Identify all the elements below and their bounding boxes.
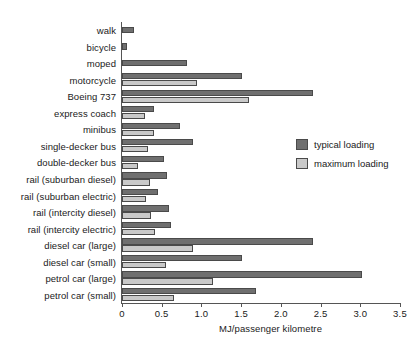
legend-item-typical-loading: typical loading (296, 137, 388, 152)
legend-swatch-maximum-icon (296, 158, 308, 169)
chart-row: diesel car (small) (0, 253, 419, 270)
bar-typical-loading (122, 288, 256, 294)
category-label: rail (suburban diesel) (26, 174, 116, 185)
bar-maximum-loading (122, 97, 249, 103)
bar-typical-loading (122, 90, 313, 96)
category-label: diesel car (large) (44, 240, 116, 251)
legend-item-maximum-loading: maximum loading (296, 156, 388, 171)
x-axis-tick-label: 2.5 (314, 308, 328, 319)
x-axis-tick (122, 303, 123, 307)
x-axis-tick-label: 0 (119, 308, 124, 319)
bar-maximum-loading (122, 229, 155, 235)
chart-row: rail (intercity diesel) (0, 204, 419, 221)
legend-label-typical: typical loading (314, 139, 374, 150)
chart-row: minibus (0, 121, 419, 138)
x-axis-tick (162, 303, 163, 307)
bar-typical-loading (122, 123, 180, 129)
x-axis-tick (201, 303, 202, 307)
bar-typical-loading (122, 271, 362, 277)
x-axis-line (121, 303, 401, 304)
bar-maximum-loading (122, 278, 213, 284)
bar-maximum-loading (122, 245, 193, 251)
category-label: express coach (54, 107, 116, 118)
bar-typical-loading (122, 255, 242, 261)
category-label: minibus (83, 124, 116, 135)
chart-row: rail (suburban electric) (0, 187, 419, 204)
bar-typical-loading (122, 189, 158, 195)
category-label: rail (intercity electric) (28, 223, 116, 234)
x-axis-tick (321, 303, 322, 307)
chart-row: bicycle (0, 39, 419, 56)
x-axis-tick-label: 3.0 (353, 308, 367, 319)
category-label: petrol car (small) (44, 289, 116, 300)
bar-maximum-loading (122, 212, 151, 218)
bar-chart: walkbicyclemopedmotorcycleBoeing 737expr… (0, 0, 419, 350)
chart-row: express coach (0, 105, 419, 122)
category-label: motorcycle (70, 74, 116, 85)
bar-typical-loading (122, 106, 154, 112)
x-axis-tick-label: 2.0 (274, 308, 288, 319)
category-label: moped (87, 58, 116, 69)
bar-typical-loading (122, 238, 313, 244)
chart-row: motorcycle (0, 72, 419, 89)
bar-typical-loading (122, 156, 164, 162)
x-axis-tick-label: 0.5 (155, 308, 169, 319)
bar-typical-loading (122, 27, 134, 33)
x-axis-title: MJ/passenger kilometre (0, 323, 419, 334)
chart-row: walk (0, 22, 419, 39)
bar-maximum-loading (122, 130, 154, 136)
category-label: single-decker bus (41, 140, 116, 151)
category-label: bicycle (87, 41, 116, 52)
chart-row: petrol car (small) (0, 286, 419, 303)
x-axis-tick (241, 303, 242, 307)
category-label: walk (97, 25, 116, 36)
chart-row: petrol car (large) (0, 270, 419, 287)
x-axis-tick-label: 1.0 (195, 308, 209, 319)
bar-maximum-loading (122, 295, 174, 301)
legend-swatch-typical-icon (296, 139, 308, 150)
chart-legend: typical loading maximum loading (296, 137, 388, 175)
x-axis-tick (360, 303, 361, 307)
category-label: Boeing 737 (67, 91, 116, 102)
legend-label-maximum: maximum loading (314, 158, 388, 169)
chart-row: rail (intercity electric) (0, 220, 419, 237)
x-axis-tick-label: 1.5 (234, 308, 248, 319)
bar-typical-loading (122, 60, 187, 66)
x-axis-tick (400, 303, 401, 307)
chart-row: Boeing 737 (0, 88, 419, 105)
category-label: double-decker bus (37, 157, 116, 168)
bar-maximum-loading (122, 163, 138, 169)
category-label: rail (suburban electric) (21, 190, 116, 201)
bar-maximum-loading (122, 146, 148, 152)
category-label: diesel car (small) (43, 256, 116, 267)
category-label: petrol car (large) (45, 273, 116, 284)
category-label: rail (intercity diesel) (33, 207, 116, 218)
bar-maximum-loading (122, 179, 150, 185)
bar-maximum-loading (122, 113, 145, 119)
bar-typical-loading (122, 222, 171, 228)
bar-typical-loading (122, 73, 242, 79)
x-axis-tick (281, 303, 282, 307)
bar-typical-loading (122, 139, 193, 145)
x-axis-tick-label: 3.5 (393, 308, 407, 319)
bar-maximum-loading (122, 262, 166, 268)
bar-typical-loading (122, 172, 167, 178)
bar-maximum-loading (122, 80, 197, 86)
bar-typical-loading (122, 205, 169, 211)
chart-row: moped (0, 55, 419, 72)
chart-row: diesel car (large) (0, 237, 419, 254)
bar-maximum-loading (122, 196, 146, 202)
bar-typical-loading (122, 43, 127, 49)
